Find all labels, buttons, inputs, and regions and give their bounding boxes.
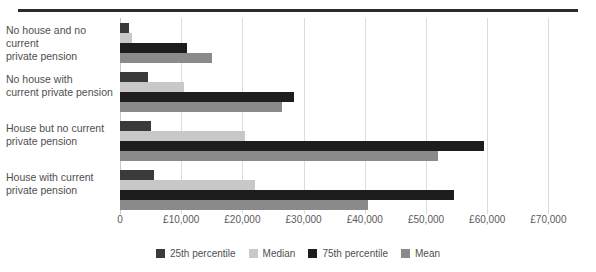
bar	[120, 72, 148, 82]
legend-label: Mean	[415, 248, 440, 259]
bar	[120, 151, 438, 161]
x-tick-label: £30,000	[286, 214, 322, 225]
bar	[120, 33, 132, 43]
legend-swatch-icon	[401, 249, 410, 258]
x-tick-label: £20,000	[224, 214, 260, 225]
category-label: House with currentprivate pension	[6, 171, 118, 197]
bar	[120, 82, 184, 92]
bar	[120, 170, 154, 180]
bar	[120, 92, 294, 102]
category-label: No house withcurrent private pension	[6, 73, 118, 99]
category-label-line: House with current	[6, 171, 118, 184]
x-tick-label: £60,000	[469, 214, 505, 225]
x-tick-label: £70,000	[530, 214, 566, 225]
x-tick-label: £50,000	[408, 214, 444, 225]
bar	[120, 121, 151, 131]
legend-label: Median	[263, 248, 296, 259]
bar	[120, 141, 484, 151]
bar	[120, 102, 282, 112]
x-tick-label: 0	[117, 214, 123, 225]
bar	[120, 53, 212, 63]
legend-item[interactable]: Mean	[401, 248, 440, 259]
plot-area	[120, 18, 579, 214]
bar	[120, 180, 255, 190]
legend-label: 25th percentile	[170, 248, 236, 259]
bar-group	[120, 67, 579, 116]
value-axis-tick-labels: 0£10,000£20,000£30,000£40,000£50,000£60,…	[0, 214, 596, 234]
legend-item[interactable]: 75th percentile	[308, 248, 388, 259]
legend-item[interactable]: Median	[249, 248, 296, 259]
category-label-line: private pension	[6, 184, 118, 197]
bar-group	[120, 165, 579, 214]
legend-item[interactable]: 25th percentile	[156, 248, 236, 259]
category-axis-labels: No house and no currentprivate pensionNo…	[6, 18, 118, 214]
legend-swatch-icon	[308, 249, 317, 258]
x-tick-label: £10,000	[163, 214, 199, 225]
category-label-line: private pension	[6, 135, 118, 148]
category-label-line: No house and no current	[6, 24, 118, 50]
category-label-line: No house with	[6, 73, 118, 86]
bar	[120, 200, 368, 210]
bar-group	[120, 116, 579, 165]
legend-swatch-icon	[156, 249, 165, 258]
category-label: House but no currentprivate pension	[6, 122, 118, 148]
category-label: No house and no currentprivate pension	[6, 24, 118, 64]
chart-legend: 25th percentileMedian75th percentileMean	[0, 248, 596, 259]
bar	[120, 131, 245, 141]
chart-root: No house and no currentprivate pensionNo…	[0, 0, 596, 272]
x-tick-label: £40,000	[347, 214, 383, 225]
bar	[120, 190, 454, 200]
bar	[120, 43, 187, 53]
category-label-line: House but no current	[6, 122, 118, 135]
bar	[120, 23, 129, 33]
bar-group	[120, 18, 579, 67]
category-label-line: current private pension	[6, 86, 118, 99]
legend-swatch-icon	[249, 249, 258, 258]
legend-label: 75th percentile	[322, 248, 388, 259]
top-divider-rule	[18, 9, 578, 12]
category-label-line: private pension	[6, 50, 118, 63]
